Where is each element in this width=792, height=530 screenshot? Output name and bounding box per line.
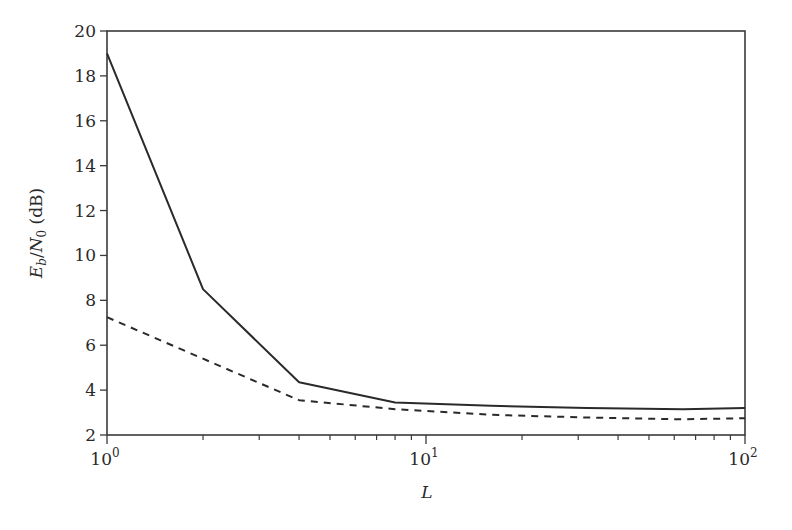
x-tick-label: 102 (728, 446, 757, 469)
y-axis-label: Eb/N0 (dB) (26, 188, 49, 279)
y-tick-label: 10 (74, 245, 96, 265)
chart: 2468101214161820 100101102 L Eb/N0 (dB) (0, 0, 792, 530)
data-series (107, 53, 745, 419)
x-axis-ticks: 100101102 (90, 435, 757, 469)
x-tick-label: 100 (90, 446, 119, 469)
x-axis-label: L (420, 482, 432, 502)
ylabel-e: E (26, 265, 46, 279)
ylabel-sub-0: 0 (35, 230, 49, 238)
y-tick-label: 2 (85, 425, 96, 445)
ylabel-n: N (26, 236, 46, 253)
plot-frame (107, 31, 745, 435)
ylabel-sub-b: b (35, 258, 49, 266)
plot-border (107, 31, 745, 435)
ylabel-unit: (dB) (26, 188, 46, 230)
series-line-solid (107, 53, 745, 409)
x-tick-label: 101 (409, 446, 438, 469)
y-tick-label: 16 (74, 111, 96, 131)
y-axis-ticks: 2468101214161820 (74, 21, 107, 445)
y-tick-label: 6 (85, 335, 96, 355)
y-tick-label: 4 (85, 380, 96, 400)
y-tick-label: 20 (74, 21, 96, 41)
y-tick-label: 8 (85, 290, 96, 310)
y-tick-label: 14 (74, 156, 96, 176)
y-tick-label: 12 (74, 201, 96, 221)
y-tick-label: 18 (74, 66, 96, 86)
